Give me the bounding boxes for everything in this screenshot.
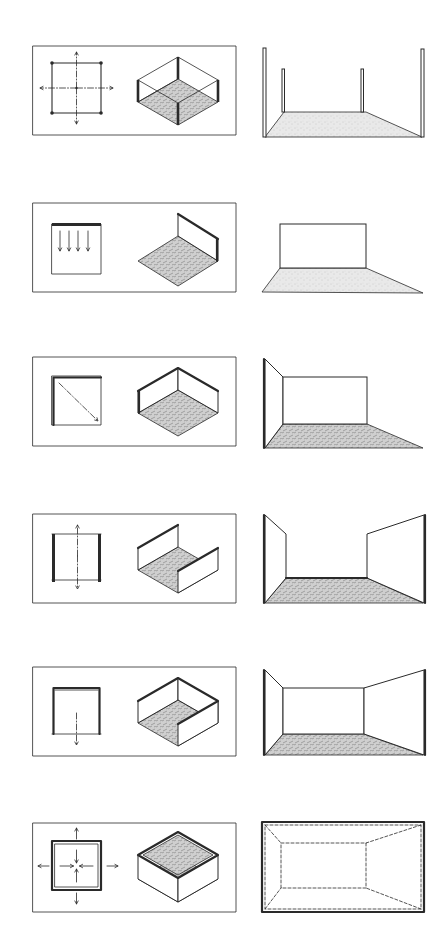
row-frame <box>33 46 236 135</box>
perspective-scene <box>264 670 425 755</box>
dashed-edge <box>366 888 421 909</box>
arrow-in-left-icon <box>80 864 94 867</box>
column-post <box>177 103 180 125</box>
row-single-plane: Single vertical plane <box>33 203 423 293</box>
arrow-left-icon <box>38 864 49 867</box>
row-columns: Four columns at corners <box>33 46 424 137</box>
arrow-up-icon <box>75 52 78 88</box>
dashed-outline <box>265 825 421 909</box>
perspective-scene <box>264 515 425 603</box>
isometric-diagram <box>137 57 220 125</box>
arrow-down-icon <box>76 231 79 251</box>
dashed-edge <box>265 888 281 909</box>
column-dot <box>99 61 103 65</box>
row-closure: Four planes: closure <box>33 822 424 912</box>
wall-back <box>283 688 364 734</box>
column-post <box>177 57 180 79</box>
arrow-left-icon <box>40 86 77 89</box>
arrow-down-icon <box>75 893 78 904</box>
isometric-diagram <box>138 214 218 286</box>
wall-back <box>283 377 367 424</box>
column-post <box>217 80 220 102</box>
row-u-shaped: U-shaped planes <box>33 667 425 756</box>
arrow-right-icon <box>107 864 118 867</box>
perspective-scene <box>264 359 423 448</box>
column-front-right <box>421 49 424 137</box>
wall-plane <box>52 223 101 226</box>
arrow-down-icon <box>75 713 78 745</box>
arrow-down-icon <box>86 231 89 251</box>
plan-diagram <box>40 52 113 124</box>
column-back-left <box>282 69 285 112</box>
plan-diagram <box>52 688 101 745</box>
perspective-scene <box>262 822 424 912</box>
arrow-diagonal-icon <box>59 383 98 421</box>
column-dot <box>50 111 54 115</box>
arrow-up-icon <box>75 828 78 839</box>
isometric-diagram <box>138 368 218 436</box>
column-back-right <box>361 69 364 112</box>
arrow-in-right-icon <box>60 864 74 867</box>
plan-diagram <box>52 223 101 274</box>
wall-plane-left <box>52 534 55 582</box>
wall-plane-right <box>98 534 101 582</box>
dashed-edge <box>366 825 421 843</box>
floor-plane <box>262 268 423 293</box>
plan-diagram <box>52 525 101 589</box>
dashed-edge <box>265 825 281 843</box>
floor-plane <box>265 424 423 448</box>
isometric-diagram <box>138 678 218 746</box>
arrow-down-icon <box>76 556 79 589</box>
plan-diagram <box>38 828 118 904</box>
diagram-rows: Four columns at cornersSingle vertical p… <box>33 46 425 912</box>
arrow-down-icon <box>75 88 78 124</box>
arrow-up-icon <box>76 525 79 556</box>
row-parallel: Parallel planes <box>33 514 425 603</box>
perspective-scene <box>263 48 424 137</box>
arrow-in-up-icon <box>75 869 78 882</box>
diagram-canvas: Four columns at cornersSingle vertical p… <box>0 0 446 945</box>
arrow-right-icon <box>77 86 114 89</box>
column-dot <box>99 111 103 115</box>
dashed-back-wall <box>281 843 366 888</box>
dashed-room <box>265 825 421 909</box>
isometric-diagram <box>138 832 218 902</box>
arrow-in-down-icon <box>75 850 78 863</box>
column-dot <box>50 61 54 65</box>
closure-outer <box>52 841 101 890</box>
frame-outer <box>262 822 424 912</box>
wall-plane <box>280 224 366 268</box>
plan-diagram <box>52 376 101 425</box>
row-l-shaped: L-shaped planes <box>33 357 423 448</box>
arrow-down-icon <box>58 231 61 251</box>
arrow-down-icon <box>67 231 70 251</box>
column-post <box>137 80 140 102</box>
column-front-left <box>263 48 266 137</box>
arrow-shaft <box>59 383 98 421</box>
perspective-scene <box>262 224 423 293</box>
floor-plane <box>265 112 422 137</box>
isometric-diagram <box>138 525 218 593</box>
